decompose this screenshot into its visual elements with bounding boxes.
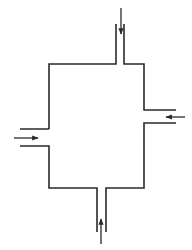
chamber-walls: [20, 24, 176, 232]
chamber-outline: [20, 24, 176, 232]
diagram-canvas: [0, 0, 192, 250]
chamber-diagram: [0, 0, 192, 250]
flow-arrows: [14, 8, 185, 244]
